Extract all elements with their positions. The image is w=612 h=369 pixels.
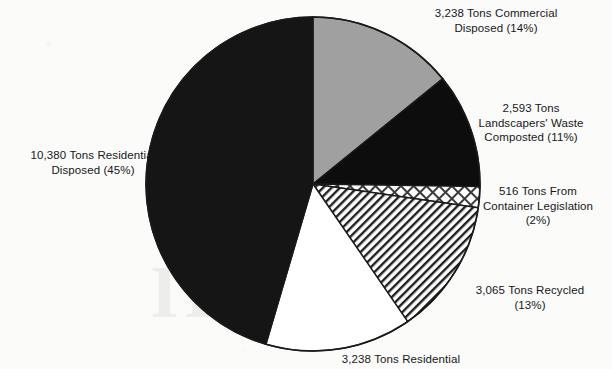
slice-label-commercial-disposed: 3,238 Tons Commercial Disposed (14%) xyxy=(396,6,596,35)
pie-slice-group xyxy=(146,17,480,351)
slice-label-residential-disposed: 10,380 Tons Residential Disposed (45%) xyxy=(2,148,184,177)
pie-chart-figure: ID 3,238 Tons Commercial Disposed (14%) … xyxy=(0,0,612,369)
slice-label-container-legislation: 516 Tons From Container Legislation (2%) xyxy=(464,184,612,228)
slice-label-recycled: 3,065 Tons Recycled (13%) xyxy=(448,283,612,312)
slice-label-residential-composted: 3,238 Tons Residential xyxy=(288,352,514,367)
slice-label-landscapers-waste-composted: 2,593 Tons Landscapers' Waste Composted … xyxy=(452,101,610,145)
